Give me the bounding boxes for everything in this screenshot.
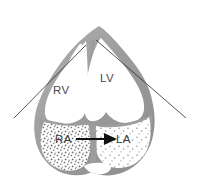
label-left-atrium: LA <box>116 133 131 145</box>
label-right-ventricle: RV <box>53 84 70 96</box>
label-left-ventricle: LV <box>100 72 114 84</box>
heart-diagram-figure: RV LV RA LA <box>0 0 198 189</box>
heart-four-chamber-svg: RV LV RA LA <box>0 0 198 189</box>
label-right-atrium: RA <box>55 133 72 145</box>
